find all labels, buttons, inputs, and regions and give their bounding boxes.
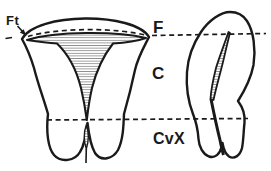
label-corpus: C: [152, 65, 165, 82]
diagram-canvas: [0, 0, 271, 171]
label-fundus: F: [153, 19, 164, 36]
sagittal-body-outline: [187, 12, 255, 158]
label-fallopian-tube: Ft: [6, 14, 19, 27]
coronal-uterus-figure: [6, 18, 150, 163]
uterus-diagram: Ft F C CvX: [0, 0, 271, 171]
label-cervix: CvX: [153, 131, 185, 147]
tube-opening-mark: [6, 38, 13, 39]
cervical-canal: [84, 125, 88, 149]
sagittal-uterus-figure: [187, 12, 255, 158]
